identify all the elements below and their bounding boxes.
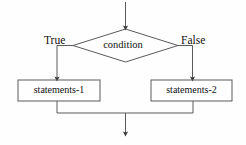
decision-node-label: condition (0, 40, 246, 51)
edge-true-branch (57, 46, 73, 80)
statements-2-label: statements-2 (151, 85, 232, 95)
flowchart-canvas (0, 0, 246, 145)
edge-false-branch (178, 46, 193, 80)
statements-1-label: statements-1 (18, 85, 100, 95)
edge-merge-line (57, 101, 193, 113)
flowchart-diagram: True False condition statements-1 statem… (0, 0, 246, 145)
